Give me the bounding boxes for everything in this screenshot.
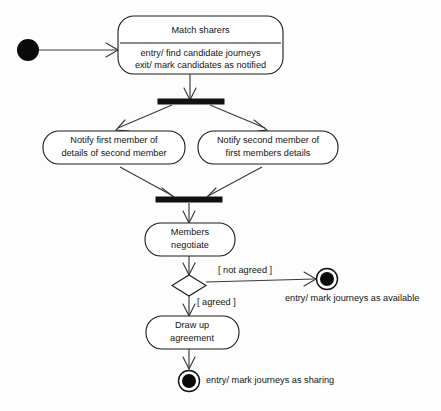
edge-notify-second-to-join bbox=[206, 167, 262, 199]
edge-initial-to-match-sharers bbox=[39, 43, 118, 57]
state-draw-up-agreement[interactable]: Draw up agreement bbox=[146, 316, 239, 349]
edge-match-sharers-to-fork bbox=[184, 74, 196, 100]
state-match-sharers[interactable]: Match sharers entry/ find candidate jour… bbox=[118, 16, 283, 74]
join-bar[interactable] bbox=[156, 197, 222, 202]
state-draw-up-agreement-line1: Draw up bbox=[175, 320, 209, 330]
guard-agreed: [ agreed ] bbox=[197, 297, 236, 307]
state-notify-first-member-line2: details of second member bbox=[61, 148, 166, 158]
state-members-negotiate-line2: negotiate bbox=[171, 240, 209, 250]
state-draw-up-agreement-line2: agreement bbox=[170, 333, 214, 343]
state-match-sharers-title: Match sharers bbox=[171, 25, 230, 35]
final-state-not-agreed-annotation: entry/ mark journeys as available bbox=[285, 293, 419, 303]
edge-members-negotiate-to-decision bbox=[183, 256, 195, 275]
state-members-negotiate[interactable]: Members negotiate bbox=[145, 223, 235, 256]
state-match-sharers-exit: exit/ mark candidates as notified bbox=[135, 60, 266, 70]
final-state-agreed-annotation: entry/ mark journeys as sharing bbox=[206, 375, 334, 385]
state-members-negotiate-line1: Members bbox=[171, 227, 210, 237]
edge-draw-up-agreement-to-final-agreed bbox=[183, 349, 195, 369]
fork-bar[interactable] bbox=[158, 99, 224, 104]
edge-fork-to-notify-first bbox=[116, 105, 172, 131]
state-notify-second-member-line2: first members details bbox=[226, 148, 311, 158]
decision-node[interactable] bbox=[172, 275, 206, 296]
state-notify-second-member[interactable]: Notify second member of first members de… bbox=[198, 131, 338, 164]
edge-join-to-members-negotiate bbox=[183, 203, 195, 223]
state-notify-second-member-line1: Notify second member of bbox=[217, 135, 320, 145]
activity-diagram-canvas: Match sharers entry/ find candidate jour… bbox=[0, 0, 441, 411]
state-notify-first-member-line1: Notify first member of bbox=[70, 135, 158, 145]
uml-activity-diagram: Match sharers entry/ find candidate jour… bbox=[0, 0, 441, 411]
edge-notify-first-to-join bbox=[120, 167, 175, 199]
final-state-agreed[interactable] bbox=[179, 371, 200, 392]
edge-fork-to-notify-second bbox=[210, 105, 267, 131]
edge-decision-to-draw-up-agreement: [ agreed ] bbox=[183, 296, 236, 316]
state-notify-first-member[interactable]: Notify first member of details of second… bbox=[43, 131, 185, 164]
guard-not-agreed: [ not agreed ] bbox=[218, 265, 272, 275]
final-state-not-agreed[interactable] bbox=[317, 269, 338, 290]
edge-decision-to-final-not-agreed: [ not agreed ] bbox=[206, 265, 316, 286]
state-match-sharers-entry: entry/ find candidate journeys bbox=[140, 48, 260, 58]
initial-node[interactable] bbox=[17, 39, 39, 61]
